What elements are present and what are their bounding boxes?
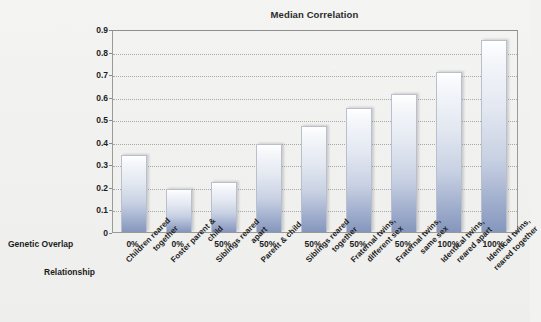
y-axis-tick-label: 0.1 (80, 205, 108, 215)
row-label-genetic-overlap: Genetic Overlap (8, 239, 73, 249)
y-axis-tick-mark (109, 53, 112, 54)
y-axis-tick-label: 0.5 (80, 115, 108, 125)
y-axis-tick-mark (109, 98, 112, 99)
bar (301, 126, 327, 232)
bar (121, 155, 147, 232)
y-axis-tick-mark (109, 30, 112, 31)
y-axis-tick-mark (109, 165, 112, 166)
y-axis-tick-label: 0.9 (80, 25, 108, 35)
y-axis-tick-label: 0.6 (80, 93, 108, 103)
plot-area (112, 30, 518, 233)
bar (436, 72, 462, 232)
chart-title: Median Correlation (112, 9, 517, 20)
bar (481, 40, 507, 232)
y-axis-tick-mark (109, 210, 112, 211)
y-axis-tick-label: 0.8 (80, 48, 108, 58)
y-axis-labels: 00.10.20.30.40.50.60.70.80.9 (76, 30, 108, 233)
y-axis-tick-label: 0.4 (80, 138, 108, 148)
gridline (113, 54, 517, 55)
y-axis-tick-mark (109, 188, 112, 189)
bar (346, 108, 372, 232)
y-axis-tick-mark (109, 143, 112, 144)
bar (391, 94, 417, 232)
y-axis-tick-mark (109, 120, 112, 121)
y-axis-tick-label: 0.3 (80, 160, 108, 170)
bar (256, 144, 282, 232)
y-axis-tick-label: 0.2 (80, 183, 108, 193)
y-axis-tick-mark (109, 75, 112, 76)
row-label-relationship: Relationship (44, 267, 95, 277)
y-axis-tick-label: 0.7 (80, 70, 108, 80)
y-axis-tick-mark (109, 233, 112, 234)
y-axis-tick-label: 0 (80, 228, 108, 238)
